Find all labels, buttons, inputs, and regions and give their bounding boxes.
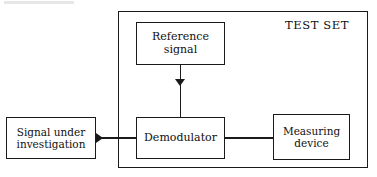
node-measuring-device-label: Measuring device xyxy=(283,125,340,150)
node-reference-signal-label: Reference signal xyxy=(152,31,209,57)
node-demodulator: Demodulator xyxy=(136,117,225,159)
arrowhead-right-icon xyxy=(96,133,103,143)
arrowhead-down-icon xyxy=(175,79,185,86)
diagram-canvas: TEST SET Reference signal Demodulator Me… xyxy=(0,0,377,177)
node-measuring-device: Measuring device xyxy=(273,114,350,160)
test-set-label: TEST SET xyxy=(285,18,349,32)
connector-demodulator-to-measuring-device xyxy=(225,137,273,139)
scan-artifact-smudge xyxy=(4,1,74,4)
node-signal-under-investigation: Signal under investigation xyxy=(6,117,96,159)
node-demodulator-label: Demodulator xyxy=(144,132,217,145)
node-reference-signal: Reference signal xyxy=(136,22,225,65)
node-signal-under-investigation-label: Signal under investigation xyxy=(17,126,86,151)
connector-reference-signal-to-demodulator xyxy=(180,65,182,117)
